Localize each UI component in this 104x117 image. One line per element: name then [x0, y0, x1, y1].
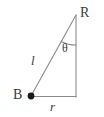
vertex-dot-b [28, 93, 35, 100]
side-label-hypotenuse: l [31, 54, 35, 67]
hypotenuse-line [31, 15, 76, 96]
angle-label-theta: θ [62, 42, 68, 54]
vertex-label-b: B [13, 88, 22, 102]
geometry-diagram: R B l r θ [0, 0, 104, 117]
side-label-base: r [50, 100, 55, 113]
vertex-label-r-apex: R [80, 6, 89, 20]
